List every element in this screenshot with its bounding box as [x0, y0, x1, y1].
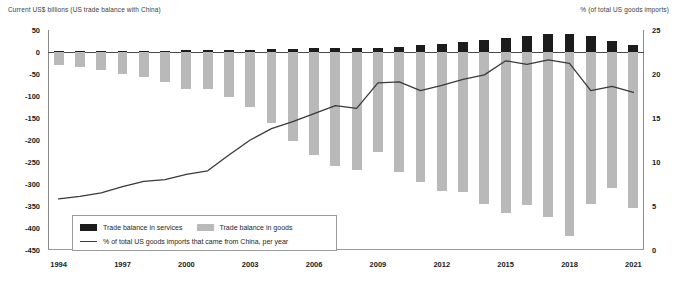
- x-tick-2009: 2009: [358, 260, 398, 269]
- left-tick-neg350: -350: [6, 202, 40, 211]
- x-tick-2006: 2006: [294, 260, 334, 269]
- x-tick-2021: 2021: [613, 260, 653, 269]
- left-tick-50: 50: [6, 26, 40, 35]
- right-axis-title: % (of total US goods imports): [580, 6, 669, 13]
- chart-container: Current US$ billions (US trade balance w…: [0, 0, 675, 286]
- left-tick-neg400: -400: [6, 224, 40, 233]
- legend-label-line: % of total US goods imports that came fr…: [103, 238, 288, 245]
- legend-row-line: % of total US goods imports that came fr…: [80, 235, 329, 247]
- left-tick-neg50: -50: [6, 70, 40, 79]
- right-tick-0: 0: [652, 246, 675, 255]
- line-swatch-icon: [80, 238, 97, 245]
- left-tick-neg100: -100: [6, 92, 40, 101]
- x-tick-2000: 2000: [166, 260, 206, 269]
- left-tick-neg450: -450: [6, 246, 40, 255]
- goods-swatch-icon: [197, 224, 214, 231]
- chart-legend: Trade balance in services Trade balance …: [72, 215, 337, 251]
- x-tick-2018: 2018: [550, 260, 590, 269]
- left-tick-0: 0: [6, 48, 40, 57]
- legend-row-bars: Trade balance in services Trade balance …: [80, 221, 329, 233]
- left-tick-neg300: -300: [6, 180, 40, 189]
- x-tick-2012: 2012: [422, 260, 462, 269]
- legend-label-goods: Trade balance in goods: [220, 224, 293, 231]
- left-tick-neg200: -200: [6, 136, 40, 145]
- legend-label-services: Trade balance in services: [103, 224, 183, 231]
- right-tick-10: 10: [652, 158, 675, 167]
- left-axis-title: Current US$ billions (US trade balance w…: [8, 6, 161, 13]
- left-tick-neg250: -250: [6, 158, 40, 167]
- left-tick-neg150: -150: [6, 114, 40, 123]
- right-tick-5: 5: [652, 202, 675, 211]
- x-tick-2003: 2003: [230, 260, 270, 269]
- services-swatch-icon: [80, 224, 97, 231]
- right-tick-20: 20: [652, 70, 675, 79]
- x-tick-1997: 1997: [103, 260, 143, 269]
- right-tick-25: 25: [652, 26, 675, 35]
- x-tick-2015: 2015: [486, 260, 526, 269]
- right-tick-15: 15: [652, 114, 675, 123]
- x-tick-1994: 1994: [39, 260, 79, 269]
